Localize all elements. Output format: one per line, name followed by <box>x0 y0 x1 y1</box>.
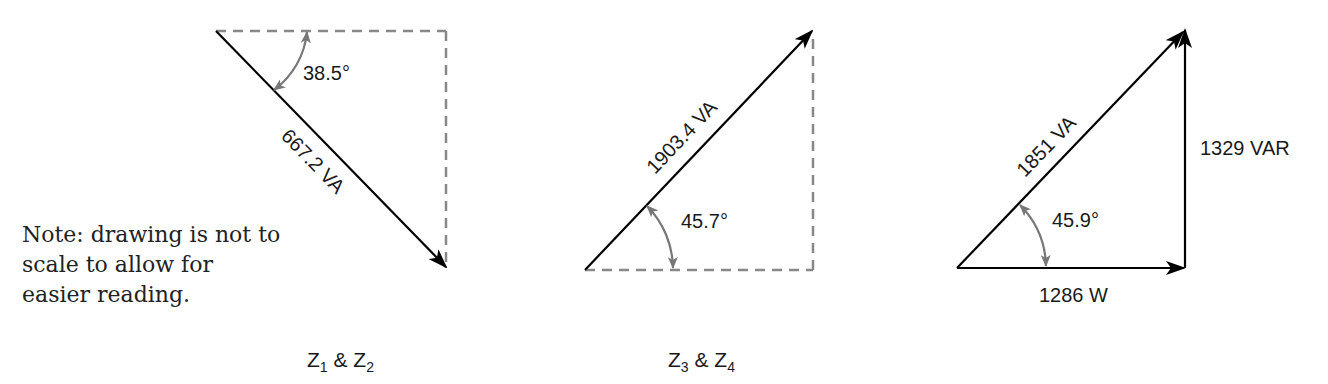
angle-label: 45.7° <box>681 210 728 232</box>
hypotenuse-label: 1903.4 VA <box>642 95 722 177</box>
apparent-power-vector <box>585 31 812 270</box>
hypotenuse-label: 1851 VA <box>1012 111 1081 181</box>
angle-label: 38.5° <box>303 62 350 84</box>
power-triangle-diagram: 38.5° 667.2 VA Z1 & Z2 45.7° 1903.4 VA Z… <box>0 0 1328 384</box>
reactive-power-label: 1329 VAR <box>1200 137 1290 159</box>
angle-arc-icon <box>1020 205 1046 266</box>
caption-z3-z4: Z3 & Z4 <box>668 348 735 375</box>
triangle-z3-z4: 45.7° 1903.4 VA Z3 & Z4 <box>585 31 813 375</box>
triangle-z1-z2: 38.5° 667.2 VA Z1 & Z2 <box>216 31 446 375</box>
triangle-total: 45.9° 1851 VA 1286 W 1329 VAR <box>957 30 1290 306</box>
apparent-power-vector <box>957 32 1183 268</box>
caption-z1-z2: Z1 & Z2 <box>307 348 374 375</box>
hypotenuse-label: 667.2 VA <box>277 124 350 198</box>
angle-label: 45.9° <box>1052 209 1099 231</box>
angle-arc-icon <box>647 206 673 268</box>
real-power-label: 1286 W <box>1039 284 1108 306</box>
scale-note: Note: drawing is not to scale to allow f… <box>22 220 282 310</box>
